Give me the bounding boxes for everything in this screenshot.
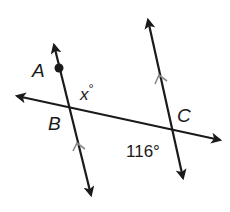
label-angle-116: 116° [126, 142, 160, 161]
label-B: B [48, 113, 61, 134]
label-A: A [31, 60, 45, 81]
label-angle-x: x° [79, 81, 94, 104]
point-A-dot [55, 64, 64, 73]
label-C: C [177, 105, 191, 126]
angle-x-degree: ° [89, 81, 94, 96]
angle-x-variable: x [79, 85, 89, 104]
parallel-lines-diagram: A B C x° 116° [0, 0, 230, 212]
